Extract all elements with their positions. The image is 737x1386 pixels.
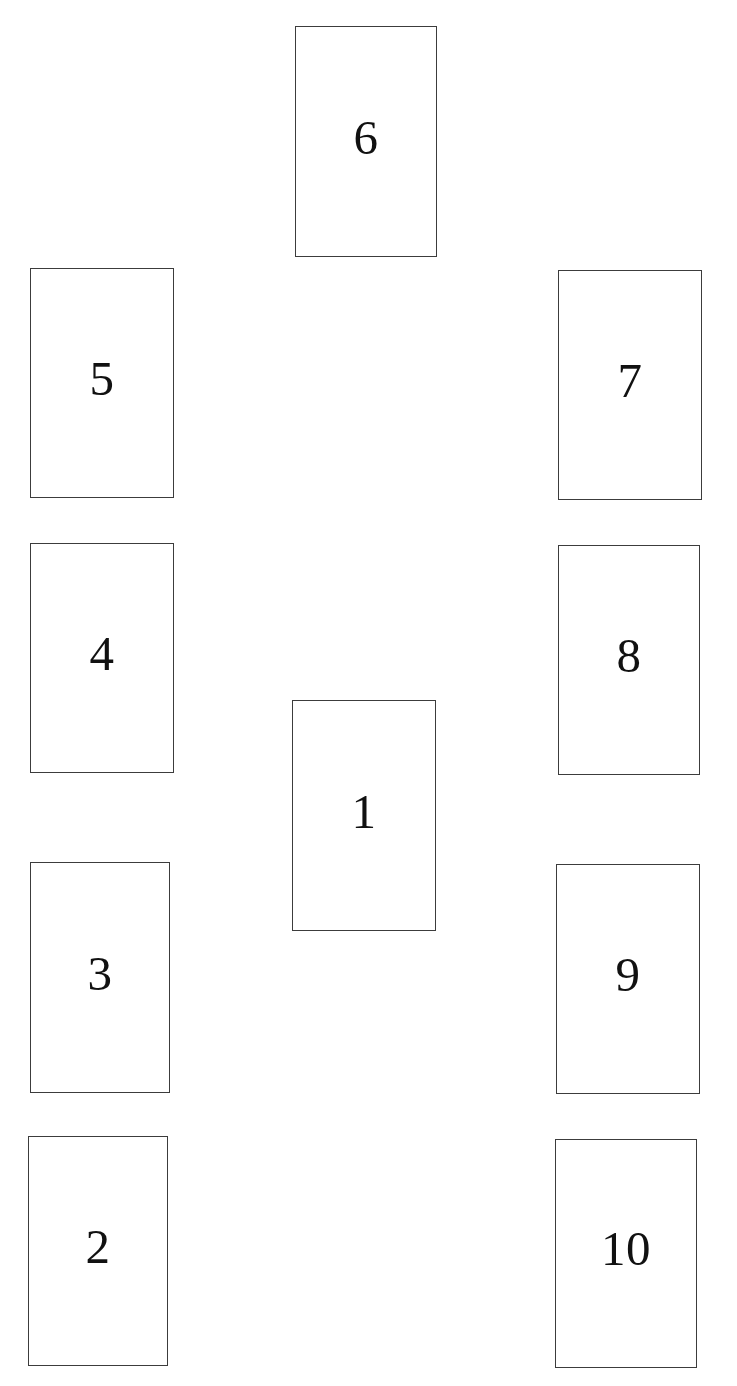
- card-10[interactable]: 10: [555, 1139, 697, 1368]
- card-2[interactable]: 2: [28, 1136, 168, 1366]
- card-4[interactable]: 4: [30, 543, 174, 773]
- card-number-label: 7: [559, 356, 701, 405]
- card-5[interactable]: 5: [30, 268, 174, 498]
- card-number-label: 2: [29, 1222, 167, 1271]
- card-7[interactable]: 7: [558, 270, 702, 500]
- card-number-label: 6: [296, 113, 436, 162]
- card-3[interactable]: 3: [30, 862, 170, 1093]
- card-8[interactable]: 8: [558, 545, 700, 775]
- card-6[interactable]: 6: [295, 26, 437, 257]
- card-number-label: 1: [293, 787, 435, 836]
- card-number-label: 3: [31, 949, 169, 998]
- card-number-label: 10: [556, 1224, 696, 1273]
- card-number-label: 8: [559, 631, 699, 680]
- card-9[interactable]: 9: [556, 864, 700, 1094]
- card-number-label: 9: [557, 950, 699, 999]
- diagram-canvas: 65748139210: [0, 0, 737, 1386]
- card-number-label: 4: [31, 629, 173, 678]
- card-1[interactable]: 1: [292, 700, 436, 931]
- card-number-label: 5: [31, 354, 173, 403]
